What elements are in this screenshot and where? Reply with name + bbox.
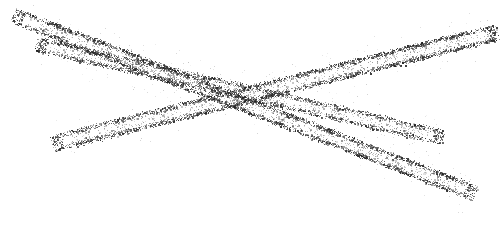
artwork-canvas: Stippled X Mark Three long straight stip… — [0, 0, 502, 236]
stipple-drawing — [0, 0, 502, 236]
